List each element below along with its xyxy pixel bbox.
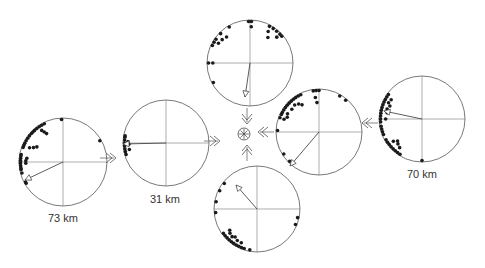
double-chevron-up-icon bbox=[242, 145, 252, 161]
double-chevron-down-icon bbox=[242, 108, 252, 124]
distance-label-73km: 73 km bbox=[48, 212, 78, 224]
double-chevron-left-icon bbox=[362, 118, 378, 128]
double-chevron-left-icon bbox=[258, 127, 274, 137]
rose-plot-right-far bbox=[379, 76, 465, 162]
double-chevron-right-icon bbox=[100, 153, 116, 163]
vector-arrowhead-icon bbox=[25, 175, 32, 180]
rose-plot-top bbox=[207, 20, 293, 106]
mean-vector-arrow bbox=[290, 132, 319, 166]
data-points bbox=[207, 20, 284, 85]
distance-label-70km: 70 km bbox=[407, 168, 437, 180]
rose-plot-left-near bbox=[123, 100, 209, 186]
center-convergence-icon bbox=[238, 128, 250, 140]
data-points bbox=[379, 93, 424, 162]
rose-plot-bottom bbox=[214, 166, 300, 252]
data-points bbox=[276, 89, 348, 163]
rose-plot-left-far bbox=[19, 118, 107, 206]
rose-plot-right-near bbox=[276, 89, 362, 175]
data-points bbox=[19, 118, 102, 185]
data-points bbox=[214, 182, 300, 252]
rose-diagram-figure bbox=[0, 0, 485, 268]
distance-label-31km: 31 km bbox=[150, 193, 180, 205]
double-chevron-right-icon bbox=[204, 136, 220, 146]
vector-arrowhead-icon bbox=[243, 91, 249, 97]
